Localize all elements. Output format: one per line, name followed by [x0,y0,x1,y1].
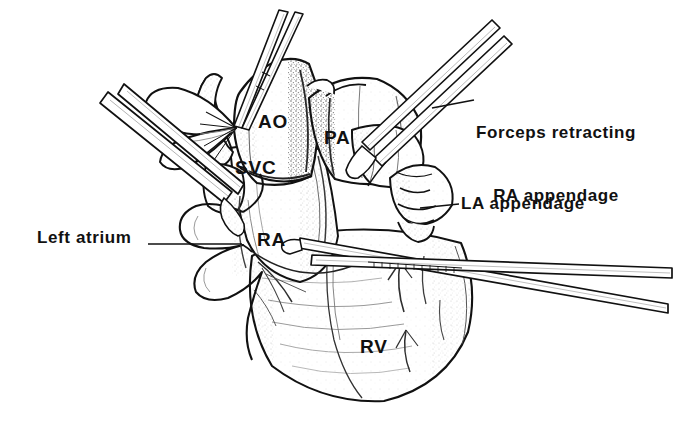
medical-illustration-figure: AO PA SVC RA RV Forceps retracting RA ap… [0,0,678,428]
label-rv: RV [360,335,388,358]
label-ao: AO [258,110,288,133]
label-ra: RA [257,228,286,251]
callout-la-appendage: LA appendage [461,194,585,215]
callout-left-atrium: Left atrium [37,228,131,249]
label-pa: PA [324,126,351,149]
label-svc: SVC [235,156,276,179]
callout-forceps-retracting-ra-appendage: Forceps retracting RA appendage [476,82,636,248]
callout-forceps-line1: Forceps retracting [476,123,636,144]
